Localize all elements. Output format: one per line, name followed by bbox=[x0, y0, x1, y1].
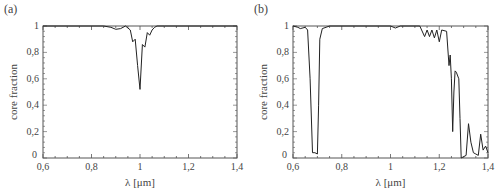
y-axis-label: core fraction bbox=[257, 64, 269, 120]
x-tick-label: 0,8 bbox=[336, 161, 349, 172]
chart-panel-a: (a)0,60,811,21,400,20,40,60,81λ [μm]core… bbox=[4, 2, 243, 188]
chart-figure: (a)0,60,811,21,400,20,40,60,81λ [μm]core… bbox=[0, 0, 500, 193]
y-tick-label: 0,4 bbox=[277, 99, 290, 110]
x-tick-label: 0,6 bbox=[287, 161, 300, 172]
y-tick-label: 0,8 bbox=[277, 46, 290, 57]
x-tick-label: 1,2 bbox=[182, 161, 195, 172]
x-tick-label: 1 bbox=[138, 161, 143, 172]
y-tick-label: 0 bbox=[32, 149, 37, 160]
x-tick-label: 0,6 bbox=[37, 161, 50, 172]
y-tick-label: 0,6 bbox=[27, 73, 40, 84]
y-tick-label: 1 bbox=[284, 20, 289, 31]
x-tick-label: 0,8 bbox=[85, 161, 98, 172]
y-axis-label: core fraction bbox=[7, 64, 19, 120]
panel-label: (a) bbox=[4, 2, 17, 16]
y-tick-label: 0 bbox=[282, 149, 287, 160]
plot-frame bbox=[43, 26, 237, 158]
chart-panel-b: (b)0,60,811,21,400,20,40,60,81λ [μm]core… bbox=[254, 2, 494, 188]
x-axis-label: λ [μm] bbox=[125, 176, 155, 188]
y-tick-label: 0,2 bbox=[277, 126, 290, 137]
x-tick-label: 1 bbox=[388, 161, 393, 172]
x-axis-label: λ [μm] bbox=[376, 176, 406, 188]
y-tick-label: 0,2 bbox=[27, 126, 40, 137]
data-series-line bbox=[293, 26, 488, 158]
panel-label: (b) bbox=[254, 2, 268, 16]
y-tick-label: 0,8 bbox=[27, 46, 40, 57]
y-tick-label: 0,6 bbox=[277, 73, 290, 84]
x-tick-label: 1,4 bbox=[231, 161, 244, 172]
y-tick-label: 0,4 bbox=[27, 99, 40, 110]
y-tick-label: 1 bbox=[34, 20, 39, 31]
data-series-line bbox=[43, 26, 237, 89]
x-tick-label: 1,2 bbox=[433, 161, 446, 172]
x-tick-label: 1,4 bbox=[482, 161, 495, 172]
